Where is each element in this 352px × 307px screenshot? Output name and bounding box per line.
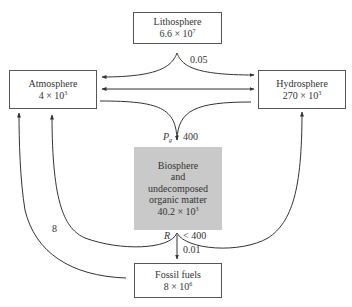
lithosphere-name: Lithosphere <box>154 16 202 28</box>
biosphere-line4: organic matter <box>149 194 207 206</box>
arrow-lithosphere-to-hydrosphere <box>177 53 254 75</box>
biosphere-line1: Biosphere <box>158 160 199 172</box>
lithosphere-box: Lithosphere 6.6 × 107 <box>133 12 222 44</box>
hydrosphere-value: 270 × 103 <box>283 90 322 102</box>
atmosphere-box: Atmosphere 4 × 103 <box>9 70 97 109</box>
flux-lithosphere-label: 0.05 <box>190 54 208 65</box>
biosphere-line2: and <box>171 171 185 183</box>
atmosphere-value: 4 × 103 <box>39 90 68 102</box>
hydrosphere-box: Hydrosphere 270 × 103 <box>258 70 346 109</box>
flux-to-fossil-label: 0.01 <box>183 244 201 255</box>
fossil-fuels-box: Fossil fuels 8 × 106 <box>134 263 222 298</box>
lithosphere-value: 6.6 × 107 <box>159 28 195 40</box>
biosphere-line3: undecomposed <box>148 183 208 195</box>
fossil-fuels-value: 8 × 106 <box>164 281 193 293</box>
arrow-lithosphere-to-atmosphere <box>102 53 177 77</box>
flux-photosynthesis-value: 400 <box>183 131 198 142</box>
biosphere-value: 40.2 × 103 <box>157 206 198 218</box>
fossil-fuels-name: Fossil fuels <box>155 269 201 281</box>
hydrosphere-name: Hydrosphere <box>276 78 328 90</box>
flux-fossil-to-atmosphere-label: 8 <box>52 223 57 234</box>
flux-respiration-value: < 400 <box>183 230 206 241</box>
flux-respiration-symbol: R <box>164 230 170 241</box>
atmosphere-name: Atmosphere <box>29 78 78 90</box>
biosphere-box: Biosphere and undecomposed organic matte… <box>134 147 222 230</box>
flux-photosynthesis-symbol: Pg <box>163 131 172 142</box>
arrow-fossil-to-atmosphere <box>19 113 126 278</box>
